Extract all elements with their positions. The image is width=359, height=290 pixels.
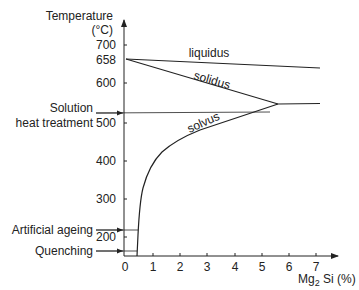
- solution-label-line1: Solution: [50, 101, 93, 115]
- y-axis-unit: (°C): [92, 23, 113, 37]
- y-tick-300: 300: [96, 192, 116, 206]
- solidus-label: solidus: [192, 68, 232, 92]
- x-tick-5: 5: [259, 260, 266, 274]
- x-tick-6: 6: [286, 260, 293, 274]
- y-tick-400: 400: [96, 154, 116, 168]
- x-tick-0: 0: [122, 260, 129, 274]
- y-tick-658: 658: [96, 53, 116, 67]
- y-tick-200: 200: [96, 230, 116, 244]
- x-tick-2: 2: [177, 260, 184, 274]
- liquidus-line: [126, 59, 320, 68]
- y-tick-500: 500: [96, 116, 116, 130]
- solution-label-line2: heat treatment: [16, 116, 94, 130]
- x-tick-1: 1: [150, 260, 157, 274]
- x-axis-title: Mg2 Si (%): [298, 272, 356, 288]
- solvus-label: solvus: [185, 109, 222, 136]
- x-tick-4: 4: [232, 260, 239, 274]
- y-axis-title: Temperature: [46, 9, 114, 23]
- eutectic-line: [278, 104, 320, 105]
- phase-diagram: Temperature (°C) 700 658 600 500 400 300…: [0, 0, 359, 290]
- liquidus-label: liquidus: [189, 46, 230, 60]
- y-tick-700: 700: [96, 38, 116, 52]
- quenching-label: Quenching: [35, 244, 93, 258]
- y-tick-600: 600: [96, 76, 116, 90]
- artificial-ageing-label: Artificial ageing: [12, 223, 93, 237]
- x-tick-3: 3: [204, 260, 211, 274]
